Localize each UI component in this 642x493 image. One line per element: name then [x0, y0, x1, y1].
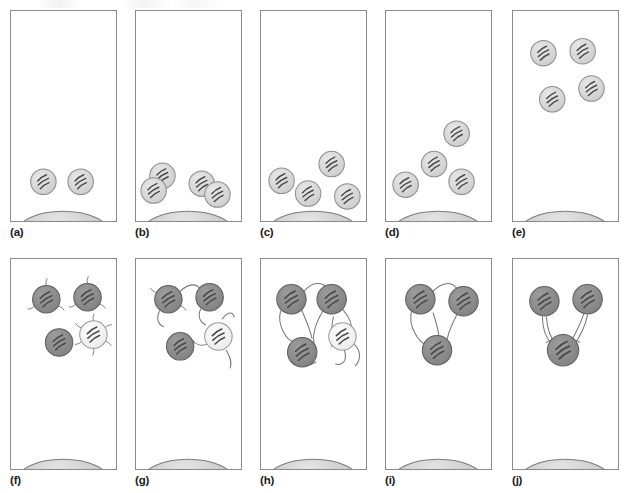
- panel-label-c: (c): [260, 226, 273, 238]
- panel-graphic-j: [513, 259, 618, 469]
- panel-j: [512, 258, 619, 470]
- panel-a: [10, 10, 117, 222]
- panel-graphic-h: [261, 259, 366, 469]
- panel-i: [385, 258, 492, 470]
- panel-graphic-i: [386, 259, 491, 469]
- panel-label-h: (h): [260, 474, 274, 486]
- figure-canvas: (a) (b): [0, 0, 642, 493]
- panel-g: [135, 258, 242, 470]
- panel-label-b: (b): [135, 226, 149, 238]
- panel-h: [260, 258, 367, 470]
- panel-d: [385, 10, 492, 222]
- panel-label-j: (j): [512, 474, 522, 486]
- panel-graphic-a: [11, 11, 116, 221]
- panel-graphic-f: [11, 259, 116, 469]
- panel-label-g: (g): [135, 474, 149, 486]
- panel-graphic-e: [513, 11, 618, 221]
- top-edge-artifact: [36, 0, 226, 8]
- panel-graphic-g: [136, 259, 241, 469]
- panel-f: [10, 258, 117, 470]
- panel-row-top: (a) (b): [0, 10, 642, 250]
- panel-label-i: (i): [385, 474, 395, 486]
- panel-graphic-b: [136, 11, 241, 221]
- panel-label-a: (a): [10, 226, 23, 238]
- panel-graphic-d: [386, 11, 491, 221]
- panel-label-f: (f): [10, 474, 21, 486]
- panel-label-d: (d): [385, 226, 399, 238]
- panel-row-bottom: (f) (g): [0, 258, 642, 493]
- panel-b: [135, 10, 242, 222]
- panel-e: [512, 10, 619, 222]
- panel-c: [260, 10, 367, 222]
- panel-graphic-c: [261, 11, 366, 221]
- panel-label-e: (e): [512, 226, 525, 238]
